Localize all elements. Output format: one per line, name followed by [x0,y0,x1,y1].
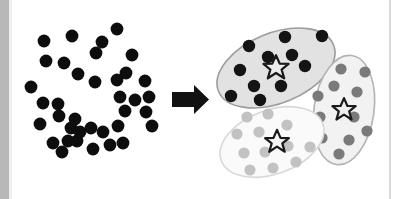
data-point [234,64,246,76]
data-point [281,119,292,130]
data-point [40,55,53,68]
data-point [343,134,354,145]
data-point [129,94,142,107]
data-point [97,126,110,139]
data-point [117,137,130,150]
data-point [53,110,66,123]
data-point [290,156,301,167]
data-point [312,90,323,101]
data-point [111,74,124,87]
data-point [351,86,362,97]
data-point [253,126,264,137]
data-point [275,80,287,92]
data-point [34,118,47,131]
data-point [52,98,65,111]
data-point [112,120,125,133]
left-gutter-shadow [9,0,12,199]
data-point [359,66,370,77]
data-point [25,81,38,94]
data-point [119,105,132,118]
data-point [143,91,156,104]
data-point [286,49,298,61]
data-point [85,122,98,135]
right-margin [391,0,397,199]
data-point [58,57,71,70]
data-point [56,146,69,159]
data-point [38,35,51,48]
data-point [104,139,117,152]
data-point [238,147,249,158]
data-point [87,143,100,156]
data-point [279,31,291,43]
data-point [66,30,79,43]
data-point [361,125,372,136]
data-point [90,47,103,60]
data-point [299,60,311,72]
data-point [225,90,237,102]
data-point [254,94,266,106]
data-point [72,68,85,81]
data-point [231,128,242,139]
data-point [262,108,273,119]
data-point [335,63,346,74]
clustering-figure: Clustering illustration: unlabeled point… [0,0,397,199]
data-point [140,106,153,119]
data-point [146,120,159,133]
right-page-rule [389,0,391,199]
data-point [243,40,255,52]
data-point [71,135,84,148]
data-point [37,97,50,110]
data-point [333,148,344,159]
data-point [96,36,109,49]
data-point [139,75,152,88]
data-point [89,76,102,89]
data-point [316,30,328,42]
data-point [267,162,278,173]
data-point [248,80,260,92]
clustering-diagram-canvas [0,0,397,199]
data-point [244,164,255,175]
left-gutter [0,0,9,199]
data-point [111,23,124,36]
data-point [241,111,252,122]
data-point [304,141,315,152]
data-point [328,80,339,91]
data-point [114,91,127,104]
data-point [126,49,139,62]
